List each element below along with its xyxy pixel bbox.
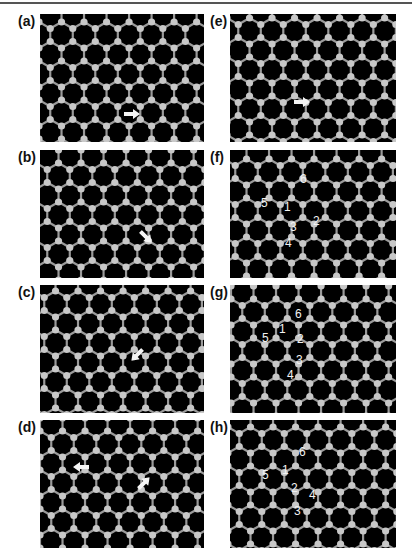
- atom-number-2: 2: [313, 215, 320, 227]
- atom-number-4: 4: [309, 489, 316, 501]
- panel-label-f: (f): [210, 149, 224, 165]
- atom-number-5: 5: [262, 469, 269, 481]
- atom-number-6: 6: [299, 446, 306, 458]
- graphene-lattice: [40, 150, 204, 278]
- graphene-lattice: [230, 285, 396, 413]
- graphene-lattice: [230, 14, 396, 142]
- atom-number-4: 4: [287, 369, 294, 381]
- atom-number-1: 1: [279, 323, 286, 335]
- atom-number-3: 3: [290, 221, 297, 233]
- panel-label-g: (g): [210, 284, 228, 300]
- micrograph-panel-a: [40, 14, 204, 142]
- micrograph-panel-f: 651234: [230, 150, 396, 278]
- graphene-lattice: [230, 420, 396, 548]
- atom-number-3: 3: [294, 505, 301, 517]
- atom-number-1: 1: [282, 464, 289, 476]
- atom-number-3: 3: [296, 354, 303, 366]
- panel-label-c: (c): [18, 284, 35, 300]
- atom-number-6: 6: [300, 173, 307, 185]
- panel-label-b: (b): [18, 149, 36, 165]
- micrograph-panel-c: [40, 285, 204, 413]
- atom-number-5: 5: [261, 197, 268, 209]
- graphene-lattice: [40, 420, 204, 548]
- graphene-lattice: [40, 14, 204, 142]
- micrograph-panel-h: 615243: [230, 420, 396, 548]
- atom-number-6: 6: [295, 308, 302, 320]
- top-rule: [0, 2, 412, 4]
- atom-number-2: 2: [297, 333, 304, 345]
- micrograph-panel-b: [40, 150, 204, 278]
- panel-label-h: (h): [210, 419, 228, 435]
- atom-number-1: 1: [284, 201, 291, 213]
- atom-number-4: 4: [285, 237, 292, 249]
- panel-label-a: (a): [18, 13, 35, 29]
- atom-number-5: 5: [262, 332, 269, 344]
- arrow-icon: [73, 462, 89, 472]
- atom-number-2: 2: [291, 482, 298, 494]
- micrograph-panel-d: [40, 420, 204, 548]
- micrograph-panel-g: 615234: [230, 285, 396, 413]
- micrograph-panel-e: [230, 14, 396, 142]
- graphene-lattice: [40, 285, 204, 413]
- arrow-icon: [294, 97, 310, 107]
- panel-label-e: (e): [210, 13, 227, 29]
- panel-label-d: (d): [18, 419, 36, 435]
- arrow-icon: [124, 109, 140, 119]
